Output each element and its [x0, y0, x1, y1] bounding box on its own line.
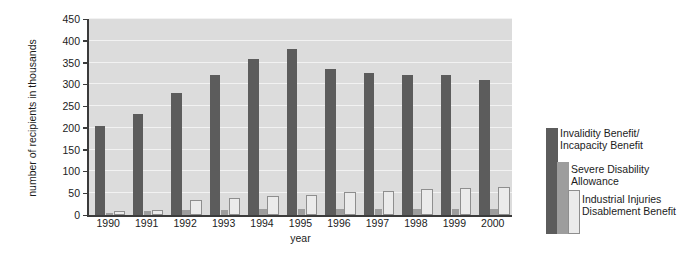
bar	[421, 189, 433, 215]
bar	[190, 200, 202, 215]
bar	[287, 49, 298, 215]
y-axis-tick-label: 450	[46, 14, 80, 25]
bar-group	[397, 19, 435, 215]
plot-area	[89, 19, 512, 215]
x-axis-tick-label: 1999	[432, 218, 476, 229]
bar-group	[127, 19, 165, 215]
bar-group	[358, 19, 396, 215]
legend-label: Invalidity Benefit/ Incapacity Benefit	[560, 128, 643, 151]
bar	[95, 126, 106, 215]
bar	[383, 191, 395, 215]
bar-group	[320, 19, 358, 215]
y-axis-line	[87, 19, 89, 216]
y-axis-tick-label: 150	[46, 145, 80, 156]
y-axis-title: number of recipients in thousands	[26, 12, 38, 224]
bar-group	[166, 19, 204, 215]
bar	[460, 188, 472, 215]
y-axis-tick-label: 400	[46, 36, 80, 47]
x-axis-tick-label: 1994	[240, 218, 284, 229]
y-axis-tick-label: 50	[46, 188, 80, 199]
chart-figure: number of recipients in thousands 050100…	[0, 0, 694, 260]
bar	[306, 195, 318, 215]
bar	[171, 93, 182, 215]
y-axis-tick-label: 0	[46, 210, 80, 221]
bar-group	[204, 19, 242, 215]
bar	[248, 59, 259, 215]
legend-label: Industrial Injuries Disablement Benefit	[582, 194, 676, 217]
bar	[210, 75, 221, 215]
chart-legend: Invalidity Benefit/ Incapacity BenefitSe…	[546, 128, 694, 234]
x-axis-title: year	[89, 232, 512, 244]
x-axis-tick-label: 1996	[317, 218, 361, 229]
bar-group	[474, 19, 512, 215]
y-axis-tick-label: 300	[46, 79, 80, 90]
bar	[498, 187, 510, 215]
bar	[364, 73, 375, 215]
bar	[344, 192, 356, 215]
bar-group	[435, 19, 473, 215]
y-axis-tick-label: 200	[46, 123, 80, 134]
x-axis-tick-label: 1993	[202, 218, 246, 229]
bar	[402, 75, 413, 215]
y-axis-tick-label: 100	[46, 166, 80, 177]
x-axis-tick-label: 1997	[355, 218, 399, 229]
bar	[267, 196, 279, 215]
x-axis-tick-label: 1990	[86, 218, 130, 229]
y-axis-tick-label: 350	[46, 58, 80, 69]
x-axis-tick-label: 1991	[125, 218, 169, 229]
y-axis-tick-label: 250	[46, 101, 80, 112]
legend-label: Severe Disability Allowance	[571, 164, 649, 187]
bar	[133, 114, 144, 215]
bar	[479, 80, 490, 215]
x-axis-tick-label: 1998	[394, 218, 438, 229]
x-axis-tick-label: 2000	[471, 218, 515, 229]
bar-group	[243, 19, 281, 215]
x-axis-tick-label: 1995	[279, 218, 323, 229]
bar	[441, 75, 452, 215]
bar	[229, 198, 241, 215]
bar-group	[89, 19, 127, 215]
legend-swatch	[568, 190, 580, 234]
x-axis-tick-label: 1992	[163, 218, 207, 229]
bar	[325, 69, 336, 215]
bar-group	[281, 19, 319, 215]
